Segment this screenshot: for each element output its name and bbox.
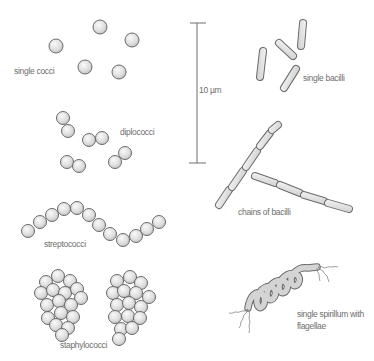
streptococci-group: streptococci [22, 202, 166, 250]
staphylococci-label: staphylococci [60, 340, 108, 350]
coccus-cell [83, 134, 96, 147]
coccus-cell [118, 285, 131, 298]
coccus-cell [52, 270, 65, 283]
scale-bar-label: 10 µm [199, 85, 222, 95]
coccus-cell [141, 223, 154, 236]
single-cocci-label: single cocci [14, 66, 55, 76]
staphylococci-group: staphylococci [35, 270, 156, 351]
bacillus-cell [274, 38, 298, 61]
coccus-cell [71, 202, 84, 215]
single-bacilli-group: single bacilli [256, 19, 345, 93]
coccus-cell [93, 219, 106, 232]
coccus-cell [96, 132, 109, 145]
bacillus-cell [297, 19, 307, 50]
coccus-cell [46, 209, 59, 222]
coccus-cell [104, 228, 117, 241]
coccus-cell [119, 147, 132, 160]
single-cocci-group: single cocci [14, 20, 139, 79]
coccus-cell [112, 65, 126, 79]
coccus-cell [78, 60, 92, 74]
scale-bar: 10 µm [189, 23, 222, 163]
coccus-cell [53, 295, 66, 308]
coccus-cell [49, 39, 63, 53]
streptococci-label: streptococci [44, 239, 86, 249]
single-bacilli-label: single bacilli [303, 73, 345, 83]
coccus-cell [41, 299, 54, 312]
coccus-cell [22, 225, 35, 238]
coccus-cell [111, 299, 124, 312]
coccus-cell [117, 234, 130, 247]
coccus-cell [58, 203, 71, 216]
coccus-cell [73, 160, 86, 173]
chains-of-bacilli-label: chains of bacilli [238, 207, 291, 217]
bacillus-cell [279, 64, 301, 93]
coccus-cell [109, 311, 122, 324]
coccus-cell [61, 156, 74, 169]
bacillus-cell [251, 172, 280, 188]
coccus-cell [126, 322, 139, 335]
coccus-cell [62, 125, 75, 138]
chains-of-bacilli-group: chains of bacilli [214, 120, 353, 217]
bacillus-cell [256, 47, 267, 81]
coccus-cell [93, 20, 107, 34]
spirillum-cell [248, 267, 317, 308]
coccus-cell [55, 307, 68, 320]
bacillus-cell [267, 120, 283, 135]
coccus-cell [125, 33, 139, 47]
bacillus-cell [324, 199, 354, 214]
bacillus-cell [241, 146, 262, 172]
coccus-cell [34, 216, 47, 229]
coccus-cell [35, 287, 48, 300]
bacteria-diagram: 10 µm single cocci diplococci streptococ… [0, 0, 374, 361]
coccus-cell [122, 310, 135, 323]
coccus-cell [57, 112, 70, 125]
spirillum-label-line2: flagellae [297, 321, 327, 331]
diplococci-label: diplococci [120, 127, 155, 137]
coccus-cell [83, 209, 96, 222]
diplococci-group: diplococci [57, 112, 155, 173]
spirillum-label-line1: single spirillum with [297, 309, 364, 319]
coccus-cell [153, 216, 166, 229]
coccus-cell [113, 333, 126, 346]
coccus-cell [109, 156, 122, 169]
spirillum-group: single spirillum with flagellae [229, 267, 364, 334]
coccus-cell [123, 297, 136, 310]
